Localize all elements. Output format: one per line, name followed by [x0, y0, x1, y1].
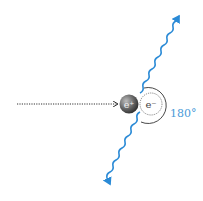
gamma-photon-down-left [107, 112, 140, 184]
angle-label: 180° [170, 107, 197, 120]
positron-label: e⁺ [124, 99, 135, 110]
gamma-photon-up-right [140, 16, 179, 93]
annihilation-diagram: e⁻ e⁺ 180° [0, 0, 203, 201]
electron-label: e⁻ [145, 99, 156, 110]
